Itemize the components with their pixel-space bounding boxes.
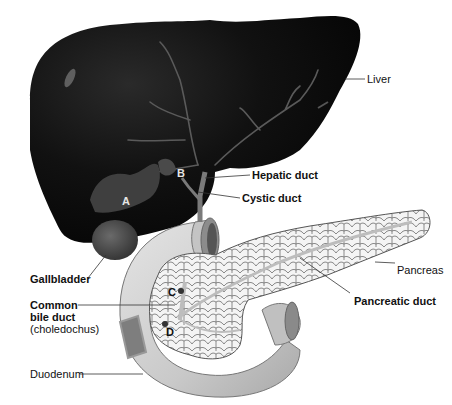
marker-c-dot (178, 288, 184, 294)
label-choledochus: (choledochus) (30, 323, 99, 336)
label-pancreas: Pancreas (397, 264, 443, 277)
label-gallbladder: Gallbladder (30, 273, 91, 286)
anatomy-diagram: Liver Hepatic duct Cystic duct Gallbladd… (0, 0, 452, 405)
marker-c: C (168, 286, 176, 298)
label-hepatic-duct: Hepatic duct (252, 169, 318, 182)
marker-b: B (177, 167, 185, 179)
liver-shape (30, 16, 360, 243)
label-liver: Liver (367, 73, 391, 86)
label-duodenum: Duodenum (30, 368, 84, 381)
marker-d: D (166, 326, 174, 338)
anatomy-illustration (0, 0, 452, 405)
gallbladder-shape (92, 220, 138, 260)
label-cystic-duct: Cystic duct (242, 192, 301, 205)
label-pancreatic-duct: Pancreatic duct (354, 295, 436, 308)
marker-a: A (122, 195, 130, 207)
